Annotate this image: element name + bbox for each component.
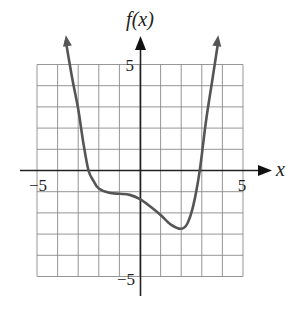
x-min-label: −5 — [29, 176, 47, 195]
function-graph: f(x) x −5 5 5 −5 — [0, 0, 300, 313]
x-axis-arrow-icon — [258, 165, 272, 176]
x-axis-label: x — [275, 158, 285, 180]
y-axis-label: f(x) — [126, 8, 154, 31]
curve-arrow-icon — [63, 35, 72, 47]
y-min-label: −5 — [117, 270, 135, 289]
function-curve — [66, 41, 218, 229]
y-axis-arrow-icon — [135, 36, 146, 50]
curve-arrow-icon — [212, 35, 221, 46]
x-max-label: 5 — [238, 176, 247, 195]
y-max-label: 5 — [126, 56, 135, 75]
